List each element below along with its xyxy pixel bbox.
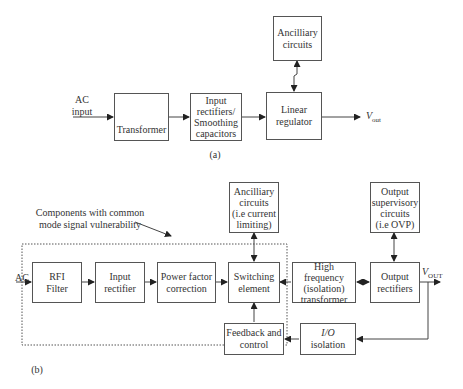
feedback-line2: control xyxy=(226,339,281,351)
annotation-line1: Components with common xyxy=(30,207,150,219)
outrect-line2: rectifiers xyxy=(377,283,413,295)
caption-a: (a) xyxy=(205,149,225,161)
supervisory-line1: Output xyxy=(372,186,419,197)
rectifiers-line2: rectifiers/ xyxy=(194,106,238,117)
vout-b-label: VOUT xyxy=(422,266,443,282)
regulator-line2: regulator xyxy=(276,116,312,128)
io-isolation-block: I/O isolation xyxy=(300,323,356,355)
supervisory-line4: (i.e OVP) xyxy=(372,219,419,230)
rectifiers-line1: Input xyxy=(194,95,238,106)
input-rectifier-block: Input rectifier xyxy=(95,262,145,303)
ancillary-b-line1: Ancilliary xyxy=(232,186,276,197)
io-line2: isolation xyxy=(311,339,345,351)
ac-input-label: AC input xyxy=(70,94,94,118)
hf-transformer-block: High frequency (isolation) transformer xyxy=(292,262,356,303)
ac-input-line1: AC xyxy=(70,94,94,106)
output-supervisory-block: Output supervisory circuits (i.e OVP) xyxy=(370,182,420,233)
outrect-line1: Output xyxy=(377,271,413,283)
rfi-filter-block: RFI Filter xyxy=(32,262,82,303)
input-rect-line2: rectifier xyxy=(104,283,136,295)
vout-a-sub: out xyxy=(372,116,381,124)
rectifiers-line4: capacitors xyxy=(194,128,238,139)
vout-b-sub: OUT xyxy=(428,272,442,280)
ac-input-line2: input xyxy=(70,106,94,118)
regulator-line1: Linear xyxy=(276,104,312,116)
transformer-block: Transformer xyxy=(114,93,169,141)
annotation-line2: mode signal vulnerability xyxy=(30,219,150,231)
feedback-line1: Feedback and xyxy=(226,327,281,339)
pfc-line1: Power factor xyxy=(161,271,212,283)
supervisory-line2: supervisory xyxy=(372,197,419,208)
hf-line1: High frequency xyxy=(293,261,355,283)
ac-b-label: AC xyxy=(15,272,29,284)
hf-line2: (isolation) xyxy=(293,283,355,294)
ancillary-circuits-a-block: Ancilliary circuits xyxy=(273,16,322,61)
linear-regulator-block: Linear regulator xyxy=(266,92,322,140)
vulnerability-annotation: Components with common mode signal vulne… xyxy=(30,207,150,231)
ancillary-a-line2: circuits xyxy=(277,39,318,51)
rfi-line1: RFI xyxy=(46,271,68,283)
rfi-line2: Filter xyxy=(46,283,68,295)
switching-line2: element xyxy=(234,283,275,295)
rectifiers-line3: Smoothing xyxy=(194,117,238,128)
supervisory-line3: circuits xyxy=(372,208,419,219)
ancillary-b-line4: limiting) xyxy=(232,219,276,230)
ancillary-circuits-b-block: Ancilliary circuits (i.e current limitin… xyxy=(229,182,279,233)
ancillary-b-line2: circuits xyxy=(232,197,276,208)
feedback-control-block: Feedback and control xyxy=(224,323,284,355)
power-factor-correction-block: Power factor correction xyxy=(157,262,216,303)
pfc-line2: correction xyxy=(161,283,212,295)
switching-element-block: Switching element xyxy=(228,262,280,303)
hf-line3: transformer xyxy=(293,294,355,305)
io-line1: I/O xyxy=(311,327,345,339)
caption-b: (b) xyxy=(27,364,47,376)
input-rect-line1: Input xyxy=(104,271,136,283)
ancillary-b-line3: (i.e current xyxy=(232,208,276,219)
switching-line1: Switching xyxy=(234,271,275,283)
transformer-label: Transformer xyxy=(117,124,167,136)
input-rectifiers-block: Input rectifiers/ Smoothing capacitors xyxy=(190,93,242,141)
vout-a-label: Vout xyxy=(366,110,381,126)
ancillary-a-line1: Ancilliary xyxy=(277,27,318,39)
output-rectifiers-block: Output rectifiers xyxy=(370,262,420,303)
